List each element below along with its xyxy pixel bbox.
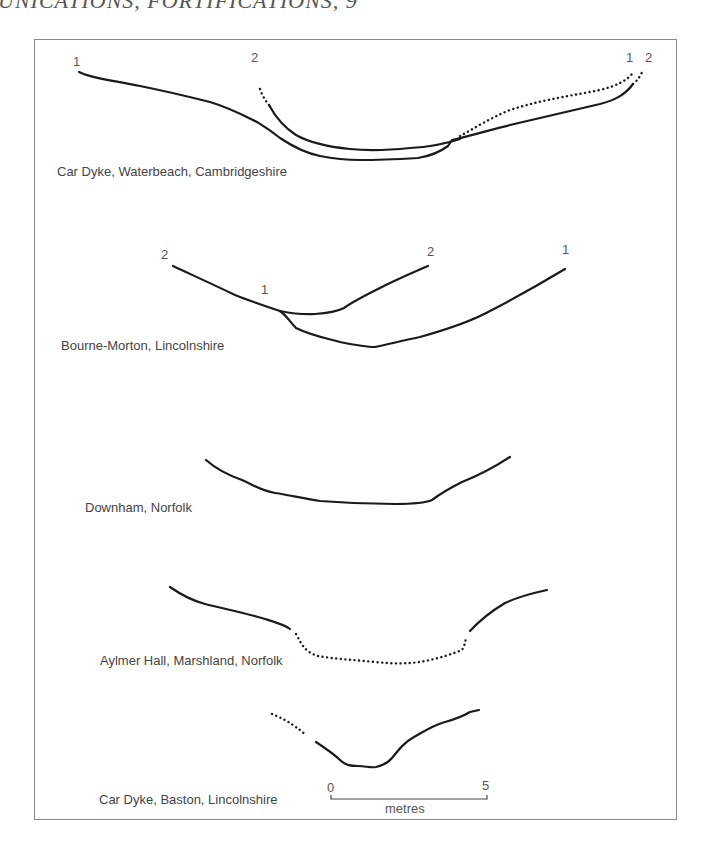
profile-line-dotted-bottom [296, 634, 466, 663]
scale-bar: 0 5 metres [327, 778, 489, 816]
profile-line-1 [280, 269, 565, 347]
site-label: Car Dyke, Waterbeach, Cambridgeshire [57, 164, 287, 179]
profile-marker: 2 [251, 50, 258, 65]
scale-unit-label: metres [385, 801, 425, 816]
profile-marker: 1 [261, 282, 268, 297]
profile-line-2-dotted-left [260, 89, 269, 105]
profile-line-left [170, 587, 290, 629]
profile-marker: 1 [562, 242, 569, 257]
profile-aylmer-hall: Aylmer Hall, Marshland, Norfolk [100, 587, 547, 668]
profile-line-2-dotted-right [633, 70, 643, 84]
profile-line-2 [280, 266, 428, 314]
profile-bourne-morton: 2 1 2 1 Bourne-Morton, Lincolnshire [61, 242, 569, 353]
site-label: Bourne-Morton, Lincolnshire [61, 338, 224, 353]
profile-marker: 2 [427, 244, 434, 259]
profile-line-1-dotted-right [460, 74, 632, 136]
profile-line-right [470, 590, 547, 631]
profile-marker: 1 [73, 54, 80, 69]
scale-end-label: 5 [482, 778, 489, 793]
profile-marker: 1 [626, 50, 633, 65]
ditch-profiles-figure: 1 2 1 2 Car Dyke, Waterbeach, Cambridges… [0, 0, 703, 843]
profile-car-dyke-waterbeach: 1 2 1 2 Car Dyke, Waterbeach, Cambridges… [57, 50, 652, 179]
site-label: Car Dyke, Baston, Lincolnshire [99, 792, 277, 807]
profile-line-dotted-left [272, 714, 306, 735]
profile-line [316, 710, 479, 767]
profile-marker: 2 [161, 247, 168, 262]
profile-line [206, 457, 510, 504]
scale-bar-line [331, 795, 487, 799]
profile-marker: 2 [645, 50, 652, 65]
profile-downham: Downham, Norfolk [85, 457, 510, 515]
profile-line-2 [269, 105, 460, 150]
profile-line-1 [79, 72, 633, 160]
scale-start-label: 0 [327, 780, 334, 795]
site-label: Aylmer Hall, Marshland, Norfolk [100, 653, 283, 668]
site-label: Downham, Norfolk [85, 500, 192, 515]
profile-car-dyke-baston: Car Dyke, Baston, Lincolnshire [99, 710, 479, 807]
